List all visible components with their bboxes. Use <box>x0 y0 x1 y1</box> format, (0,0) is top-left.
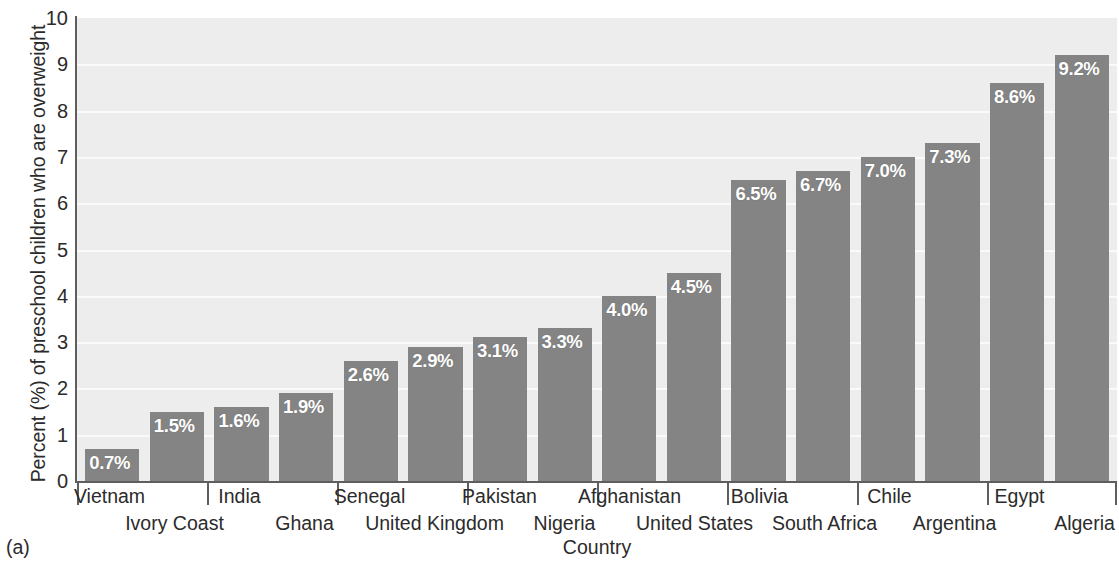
y-tick-label: 7 <box>34 147 68 167</box>
bar: 6.7% <box>796 171 850 481</box>
bar-value-label: 2.6% <box>348 364 389 386</box>
y-tick-label: 4 <box>34 286 68 306</box>
bar-value-label: 3.1% <box>477 340 518 362</box>
bar-slot: 4.5% <box>662 18 727 481</box>
bar: 1.5% <box>150 412 204 481</box>
y-tick-label: 2 <box>34 378 68 398</box>
x-tick-label: Nigeria <box>534 514 596 534</box>
bar: 1.6% <box>214 407 268 481</box>
y-tick-label: 0 <box>34 471 68 491</box>
bar-value-label: 7.3% <box>929 146 970 168</box>
bar-value-label: 4.5% <box>671 276 712 298</box>
bar: 4.0% <box>602 296 656 481</box>
bar-slot: 6.7% <box>791 18 856 481</box>
bar: 9.2% <box>1055 55 1109 481</box>
bar-value-label: 6.5% <box>735 183 776 205</box>
bar-value-label: 4.0% <box>606 299 647 321</box>
bar: 6.5% <box>731 180 785 481</box>
bar-value-label: 1.9% <box>283 396 324 418</box>
bar-value-label: 3.3% <box>542 331 583 353</box>
x-tick-label: Chile <box>867 487 911 507</box>
x-tick-label: India <box>218 487 260 507</box>
bar: 8.6% <box>990 83 1044 481</box>
y-tick-label: 8 <box>34 101 68 121</box>
bar-slot: 9.2% <box>1049 18 1114 481</box>
x-tick-label: South Africa <box>772 514 877 534</box>
bar-value-label: 1.6% <box>218 410 259 432</box>
y-axis-tick-labels: 012345678910 <box>34 0 68 581</box>
y-tick-label: 3 <box>34 332 68 352</box>
x-tick-label: United Kingdom <box>365 514 504 534</box>
bar-value-label: 1.5% <box>154 415 195 437</box>
bar-slot: 8.6% <box>985 18 1050 481</box>
x-tick-label: Vietnam <box>74 487 145 507</box>
bar: 3.3% <box>538 328 592 481</box>
x-tick-label: Ivory Coast <box>125 514 224 534</box>
y-tick-label: 10 <box>34 8 68 28</box>
y-tick-label: 9 <box>34 54 68 74</box>
x-tick-label: Argentina <box>913 514 996 534</box>
y-tick-label: 5 <box>34 240 68 260</box>
bar: 7.0% <box>861 157 915 481</box>
x-tick-label: Ghana <box>275 514 334 534</box>
bar-slot: 7.3% <box>920 18 985 481</box>
bar-value-label: 6.7% <box>800 174 841 196</box>
bar: 4.5% <box>667 273 721 481</box>
bar-slot: 3.1% <box>468 18 533 481</box>
cut-off-caption <box>10 572 1110 581</box>
x-tick-label: Pakistan <box>462 487 537 507</box>
bar: 0.7% <box>85 449 139 481</box>
bar-slot: 1.6% <box>209 18 274 481</box>
x-tick-label: Senegal <box>334 487 406 507</box>
y-tick-label: 1 <box>34 425 68 445</box>
x-axis-title: Country <box>77 536 1117 559</box>
bar-value-label: 0.7% <box>89 452 130 474</box>
y-axis-line <box>75 16 77 483</box>
x-tick-label: Egypt <box>995 487 1045 507</box>
bar-slot: 1.5% <box>145 18 210 481</box>
bar-slot: 2.9% <box>403 18 468 481</box>
x-tick-label: Algeria <box>1054 514 1115 534</box>
bar: 1.9% <box>279 393 333 481</box>
plot-area: 0.7%1.5%1.6%1.9%2.6%2.9%3.1%3.3%4.0%4.5%… <box>77 18 1117 481</box>
bar-slot: 6.5% <box>726 18 791 481</box>
bar-slot: 1.9% <box>274 18 339 481</box>
bar: 3.1% <box>473 337 527 481</box>
bar-value-label: 2.9% <box>412 350 453 372</box>
x-tick-label: Afghanistan <box>578 487 681 507</box>
bar: 7.3% <box>925 143 979 481</box>
bar: 2.6% <box>344 361 398 481</box>
bar-value-label: 7.0% <box>865 160 906 182</box>
y-tick-label: 6 <box>34 193 68 213</box>
bar: 2.9% <box>408 347 462 481</box>
x-tick-label: Bolivia <box>731 487 788 507</box>
bar-value-label: 8.6% <box>994 86 1035 108</box>
bar-slot: 2.6% <box>339 18 404 481</box>
bar-value-label: 9.2% <box>1059 58 1100 80</box>
bar-slot: 0.7% <box>80 18 145 481</box>
bar-slot: 4.0% <box>597 18 662 481</box>
bar-series: 0.7%1.5%1.6%1.9%2.6%2.9%3.1%3.3%4.0%4.5%… <box>77 18 1117 481</box>
chart-figure: Percent (%) of preschool children who ar… <box>0 0 1119 581</box>
panel-caption: (a) <box>6 536 30 559</box>
x-tick-label: United States <box>636 514 753 534</box>
bar-slot: 7.0% <box>856 18 921 481</box>
bar-slot: 3.3% <box>532 18 597 481</box>
